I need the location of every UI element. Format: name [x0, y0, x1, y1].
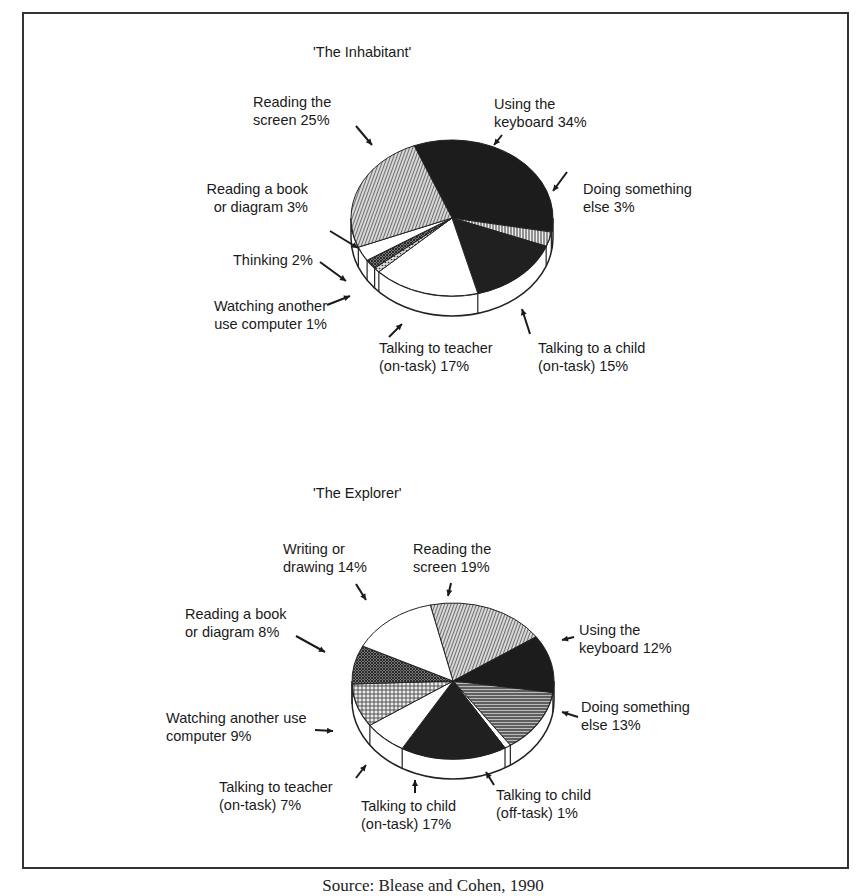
label-keyboard-inhabitant: Using the keyboard 34%: [494, 95, 587, 131]
label-teacher-inhabitant: Talking to teacher (on-task) 17%: [379, 339, 493, 375]
inhabitant-pie: [351, 140, 553, 316]
label-something-else-inhabitant: Doing something else 3%: [583, 180, 692, 216]
label-child-off-explorer: Talking to child (off-task) 1%: [496, 786, 591, 822]
label-something-else-explorer: Doing something else 13%: [581, 698, 690, 734]
label-child-on-explorer: Talking to child (on-task) 17%: [361, 797, 456, 833]
explorer-title: 'The Explorer': [313, 485, 402, 501]
label-book-explorer: Reading a book or diagram 8%: [185, 605, 287, 641]
inhabitant-title: 'The Inhabitant': [313, 44, 411, 60]
label-reading-screen-explorer: Reading the screen 19%: [413, 540, 491, 576]
label-child-inhabitant: Talking to a child (on-task) 15%: [538, 339, 645, 375]
label-watching-inhabitant: Watching another use computer 1%: [180, 297, 327, 333]
label-keyboard-explorer: Using the keyboard 12%: [579, 621, 672, 657]
explorer-pie: [352, 603, 554, 779]
label-writing-explorer: Writing or drawing 14%: [283, 540, 367, 576]
label-reading-screen-inhabitant: Reading the screen 25%: [253, 93, 331, 129]
label-teacher-explorer: Talking to teacher (on-task) 7%: [219, 778, 333, 814]
source-caption: Source: Blease and Cohen, 1990: [0, 876, 866, 896]
label-book-inhabitant: Reading a book or diagram 3%: [188, 180, 308, 216]
label-thinking-inhabitant: Thinking 2%: [233, 251, 313, 269]
label-watching-explorer: Watching another use computer 9%: [166, 709, 307, 745]
